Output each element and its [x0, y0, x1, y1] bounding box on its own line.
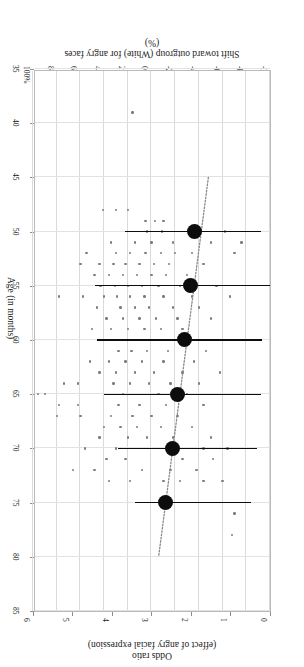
figure-stage: Odds ratio (effect of angry facial expre… [0, 0, 304, 667]
odds-ratio-tick-label: 4 [101, 618, 110, 622]
age-tick-label: 85 [11, 607, 20, 615]
age-tick-label: 45 [11, 173, 20, 181]
odds-ratio-tick-mark [152, 612, 153, 616]
error-bar [118, 448, 257, 449]
odds-ratio-tick-label: 5 [62, 618, 71, 622]
odds-ratio-tick-label: 1 [220, 618, 229, 622]
odds-ratio-tick-mark [191, 612, 192, 616]
mean-marker [187, 224, 202, 239]
age-tick-label: 55 [11, 282, 20, 290]
odds-ratio-tick-label: 0 [259, 618, 268, 622]
odds-ratio-axis-title-line2: (effect of angry facial expression) [0, 639, 304, 650]
age-tick-label: 65 [11, 390, 20, 398]
scatter-figure: Odds ratio (effect of angry facial expre… [0, 0, 304, 667]
age-tick-label: 50 [11, 228, 20, 236]
mean-marker [170, 387, 185, 402]
age-tick-label: 80 [11, 553, 20, 561]
odds-ratio-axis-title: Odds ratio (effect of angry facial expre… [0, 639, 304, 661]
odds-ratio-tick-mark [33, 612, 34, 616]
odds-ratio-axis-title-line1: Odds ratio [132, 651, 172, 661]
age-tick-label: 35 [11, 65, 20, 73]
plot-area [34, 70, 271, 612]
odds-ratio-tick-label: 2 [180, 618, 189, 622]
shift-percent-axis-title: Shift toward outgroup (White) for angry … [0, 37, 304, 59]
age-tick-label: 75 [11, 499, 20, 507]
age-tick-label: 60 [11, 336, 20, 344]
age-tick-label: 40 [11, 119, 20, 127]
shift-percent-axis-title-line1: Shift toward outgroup (White) for angry … [64, 49, 239, 59]
shift-percent-axis-title-line2: (%) [0, 37, 304, 48]
age-tick-label: 70 [11, 444, 20, 452]
odds-ratio-tick-label: 3 [141, 618, 150, 622]
odds-ratio-tick-mark [112, 612, 113, 616]
odds-ratio-tick-mark [73, 612, 74, 616]
odds-ratio-tick-mark [231, 612, 232, 616]
odds-ratio-tick-mark [270, 612, 271, 616]
odds-ratio-tick-label: 6 [22, 618, 31, 622]
error-bar [135, 502, 251, 503]
